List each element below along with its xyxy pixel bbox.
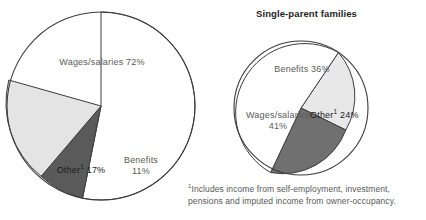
right-label-wages-value: 41% [269, 121, 288, 131]
left-label-benefits: Benefits 11% [118, 155, 164, 177]
left-label-other-value: 17% [87, 165, 106, 175]
pie-chart-figure: Single-parent families Wages/salaries 72… [0, 0, 426, 220]
left-label-benefits-value: 11% [132, 166, 150, 176]
right-pie-group [234, 41, 368, 175]
right-label-benefits: Benefits 36% [260, 64, 344, 75]
right-label-other-footnote-marker: 1 [334, 108, 338, 115]
footnote-line-1: Includes income from self-employment, in… [191, 184, 390, 194]
left-label-other: Other1 17% [50, 165, 112, 176]
left-label-other-name: Other [57, 165, 81, 175]
left-label-wages-salaries: Wages/salaries 72% [47, 57, 157, 68]
left-label-other-footnote-marker: 1 [80, 163, 84, 170]
right-label-wages-salaries: Wages/salaries 41% [238, 110, 318, 132]
right-label-other: Other1 24% [310, 110, 370, 121]
footnote-line-2: pensions and imputed income from owner-o… [188, 196, 396, 206]
right-pie-title: Single-parent families [256, 8, 357, 19]
footnote: 1Includes income from self-employment, i… [188, 184, 396, 207]
right-label-wages-name: Wages/salaries [246, 110, 310, 120]
right-label-other-value: 24% [340, 110, 359, 120]
left-label-benefits-name: Benefits [124, 155, 158, 165]
